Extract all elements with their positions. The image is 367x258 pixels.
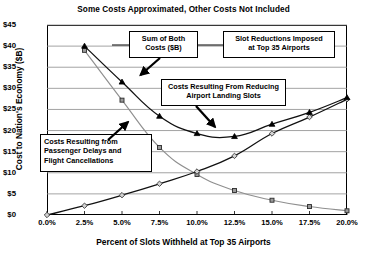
leader-line-delays — [108, 122, 128, 140]
chart-container: Some Costs Approximated, Other Costs Not… — [0, 0, 367, 258]
leader-line-sum — [141, 58, 161, 75]
annotation-arrow-layer — [0, 0, 367, 258]
leader-line-slots — [196, 106, 215, 127]
